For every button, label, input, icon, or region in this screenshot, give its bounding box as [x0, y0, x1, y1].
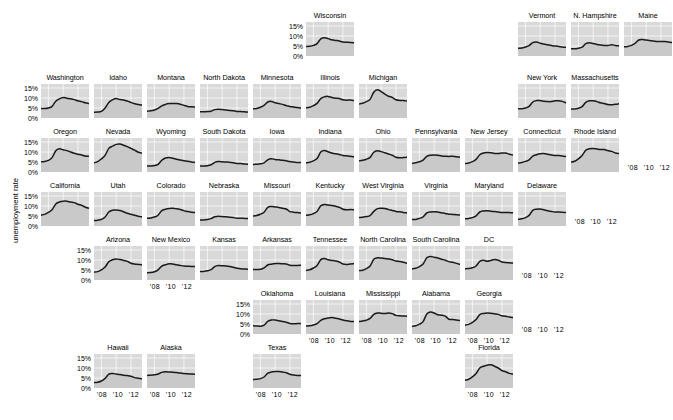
x-tick-label: '12 — [657, 164, 673, 172]
panel-title: Vermont — [529, 12, 555, 20]
panel-florida: Florida — [465, 354, 513, 388]
panel-indiana: Indiana — [306, 138, 354, 172]
panel-texas: Texas — [253, 354, 301, 388]
panel-vermont: Vermont — [518, 22, 566, 56]
x-tick-label: '08 — [465, 391, 481, 399]
x-tick-label: '08 — [465, 337, 481, 345]
x-tick-label: '10 — [588, 218, 604, 226]
panel-title: Utah — [111, 182, 126, 190]
panel-massachusetts: Massachusetts — [571, 84, 619, 118]
panel-title: South Carolina — [413, 236, 460, 244]
panel-oregon: Oregon — [41, 138, 89, 172]
panel-north-carolina: North Carolina — [359, 246, 407, 280]
panel-title: Hawaii — [107, 344, 128, 352]
x-tick-label: '10 — [322, 337, 338, 345]
panel-plot-area — [465, 300, 513, 334]
panel-montana: Montana — [147, 84, 195, 118]
panel-plot-area — [518, 192, 566, 226]
panel-alabama: Alabama — [412, 300, 460, 334]
x-tick-label: '12 — [126, 391, 142, 399]
panel-title: Illinois — [320, 74, 340, 82]
y-tick-label: 15% — [289, 23, 303, 30]
x-tick-label: '12 — [285, 391, 301, 399]
panel-plot-area — [359, 192, 407, 226]
panel-title: Connecticut — [523, 128, 560, 136]
panel-title: Nevada — [106, 128, 130, 136]
panel-plot-area — [147, 354, 195, 388]
y-tick-label: 10% — [289, 33, 303, 40]
x-axis-hawaii: '08'10'12 — [94, 391, 142, 399]
x-tick-label: '08 — [519, 326, 535, 334]
y-tick-label: 10% — [77, 257, 91, 264]
panel-nevada: Nevada — [94, 138, 142, 172]
panel-ohio: Ohio — [359, 138, 407, 172]
panel-title: Pennsylvania — [415, 128, 457, 136]
panel-colorado: Colorado — [147, 192, 195, 226]
y-tick-label: 0% — [28, 169, 38, 176]
x-tick-label: '12 — [551, 272, 567, 280]
panel-connecticut: Connecticut — [518, 138, 566, 172]
panel-virginia: Virginia — [412, 192, 460, 226]
panel-title: Maryland — [474, 182, 503, 190]
panel-plot-area — [465, 354, 513, 388]
x-tick-label: '08 — [147, 391, 163, 399]
y-axis-row-california: 15%10%5%0% — [17, 192, 38, 226]
panel-plot-area — [306, 138, 354, 172]
panel-plot-area — [200, 246, 248, 280]
x-tick-label: '08 — [412, 337, 428, 345]
panel-plot-area — [41, 138, 89, 172]
panel-plot-area — [359, 138, 407, 172]
x-axis-alaska: '08'10'12 — [147, 391, 195, 399]
panel-title: Delaware — [527, 182, 557, 190]
y-tick-label: 10% — [77, 365, 91, 372]
panel-title: Kansas — [212, 236, 236, 244]
y-tick-label: 0% — [293, 53, 303, 60]
panel-arkansas: Arkansas — [253, 246, 301, 280]
panel-title: Virginia — [424, 182, 447, 190]
panel-plot-area — [94, 192, 142, 226]
y-tick-label: 5% — [28, 105, 38, 112]
panel-plot-area — [200, 192, 248, 226]
panel-n-hampshire: N. Hampshire — [571, 22, 619, 56]
panel-plot-area — [359, 246, 407, 280]
panel-plot-area — [94, 138, 142, 172]
x-tick-label: '12 — [497, 337, 513, 345]
panel-hawaii: Hawaii — [94, 354, 142, 388]
panel-plot-area — [571, 138, 619, 172]
panel-plot-area — [518, 84, 566, 118]
panel-title: North Dakota — [203, 74, 245, 82]
panel-south-carolina: South Carolina — [412, 246, 460, 280]
panel-title: Washington — [46, 74, 83, 82]
panel-title: West Virginia — [362, 182, 403, 190]
x-tick-label: '12 — [551, 326, 567, 334]
panel-title: Wisconsin — [314, 12, 346, 20]
panel-plot-area — [306, 192, 354, 226]
panel-plot-area — [41, 192, 89, 226]
panel-plot-area — [147, 246, 195, 280]
panel-title: Nebraska — [209, 182, 239, 190]
panel-alaska: Alaska — [147, 354, 195, 388]
x-axis-rhode-island: '08'10'12 — [625, 164, 673, 172]
y-tick-label: 5% — [293, 43, 303, 50]
x-tick-label: '10 — [641, 164, 657, 172]
panel-california: California — [41, 192, 89, 226]
panel-title: New York — [527, 74, 557, 82]
x-axis-georgia-col: '08'10'12 — [465, 337, 513, 345]
y-tick-label: 5% — [240, 321, 250, 328]
panel-title: Ohio — [376, 128, 391, 136]
y-tick-label: 15% — [77, 355, 91, 362]
panel-plot-area — [412, 138, 460, 172]
panel-minnesota: Minnesota — [253, 84, 301, 118]
panel-kentucky: Kentucky — [306, 192, 354, 226]
panel-plot-area — [412, 192, 460, 226]
x-tick-label: '10 — [481, 337, 497, 345]
panel-title: Idaho — [109, 74, 127, 82]
panel-title: Montana — [157, 74, 185, 82]
y-axis-row-hawaii: 15%10%5%0% — [70, 354, 91, 388]
panel-pennsylvania: Pennsylvania — [412, 138, 460, 172]
x-tick-label: '10 — [375, 337, 391, 345]
x-axis-oklahoma-col: '08'10'12 — [306, 337, 354, 345]
panel-title: Alabama — [422, 290, 450, 298]
x-tick-label: '08 — [572, 218, 588, 226]
